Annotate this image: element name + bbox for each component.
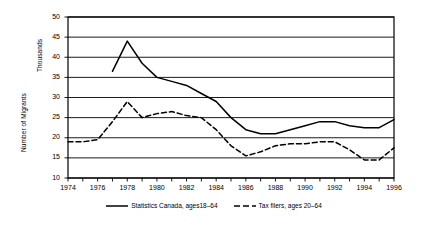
x-tick-label: 1982 [174, 184, 200, 191]
y-tick-label: 40 [44, 53, 60, 60]
legend-entry: Statistics Canada, ages18–64 [106, 202, 217, 209]
x-tick-label: 1994 [351, 184, 377, 191]
y-tick-label: 35 [44, 73, 60, 80]
x-tick-label: 1980 [144, 184, 170, 191]
legend-line-swatch [234, 203, 256, 209]
series-line-2 [68, 102, 394, 160]
x-tick-label: 1978 [114, 184, 140, 191]
x-tick-label: 1976 [85, 184, 111, 191]
y-tick-label: 50 [44, 13, 60, 20]
x-tick-label: 1988 [262, 184, 288, 191]
y-tick-label: 25 [44, 113, 60, 120]
y-tick-label: 45 [44, 33, 60, 40]
legend-line-swatch [106, 203, 128, 209]
y-tick-label: 20 [44, 133, 60, 140]
x-tick-label: 1990 [292, 184, 318, 191]
legend-label: Tax filers, ages 20–64 [259, 202, 322, 209]
y-axis-secondary-title: Thousands [36, 39, 43, 72]
y-tick-label: 30 [44, 93, 60, 100]
legend-entry: Tax filers, ages 20–64 [234, 202, 322, 209]
x-tick-label: 1986 [233, 184, 259, 191]
y-tick-label: 10 [44, 174, 60, 181]
x-tick-label: 1974 [55, 184, 81, 191]
series-line-1 [112, 41, 394, 134]
chart-legend: Statistics Canada, ages18–64Tax filers, … [0, 202, 428, 209]
x-tick-label: 1996 [381, 184, 407, 191]
x-tick-label: 1984 [203, 184, 229, 191]
y-axis-title: Number of Migrants [20, 93, 27, 152]
legend-label: Statistics Canada, ages18–64 [131, 202, 217, 209]
migration-line-chart: Thousands Number of Migrants 50454035302… [0, 0, 428, 225]
y-tick-label: 15 [44, 153, 60, 160]
plot-area [0, 0, 428, 225]
x-tick-label: 1992 [322, 184, 348, 191]
